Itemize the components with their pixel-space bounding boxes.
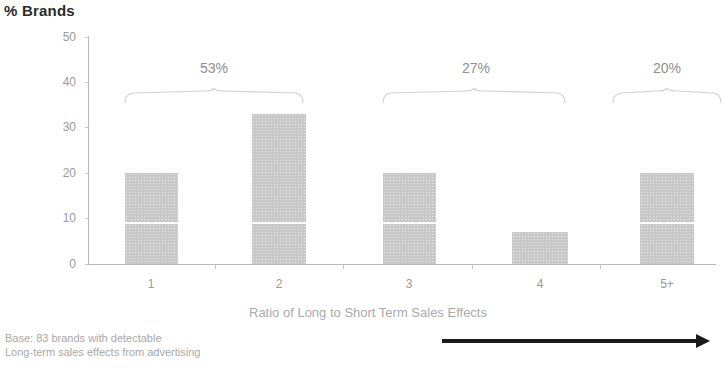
y-tick-mark	[85, 82, 89, 83]
y-tick-mark	[85, 264, 89, 265]
footnote-text: Base: 83 brands with detectable Long-ter…	[5, 331, 200, 359]
bracket-curly-1	[124, 88, 304, 104]
bar-category-1	[125, 173, 178, 264]
x-tick-label-4: 4	[510, 277, 570, 291]
bracket-curly-2	[382, 88, 566, 104]
bracket-curly-3	[612, 88, 722, 104]
x-tick-label-2: 2	[249, 277, 309, 291]
y-tick-mark	[85, 127, 89, 128]
bar-category-5plus	[640, 173, 694, 264]
bar-category-2	[252, 114, 306, 264]
y-tick-mark	[85, 218, 89, 219]
bar-category-4	[512, 232, 568, 264]
x-axis-title: Ratio of Long to Short Term Sales Effect…	[228, 305, 508, 320]
y-tick-label-0: 0	[40, 258, 76, 270]
x-tick-mark	[215, 264, 216, 269]
y-tick-label-40: 40	[40, 76, 76, 88]
bar-divider-category-1	[125, 222, 178, 224]
y-tick-mark	[85, 173, 89, 174]
x-tick-label-5plus: 5+	[637, 277, 697, 291]
bar-divider-category-5plus	[640, 222, 694, 224]
x-tick-mark	[600, 264, 601, 269]
right-arrow-icon	[440, 330, 712, 352]
bar-divider-category-2	[252, 222, 306, 224]
y-tick-label-50: 50	[40, 31, 76, 43]
x-axis-line	[88, 264, 716, 265]
bar-divider-category-3	[383, 222, 436, 224]
bracket-label-53: 53%	[150, 60, 278, 76]
x-tick-label-1: 1	[121, 277, 181, 291]
y-tick-label-20: 20	[40, 167, 76, 179]
bar-category-3	[383, 173, 436, 264]
bracket-label-20: 20%	[612, 60, 722, 76]
y-tick-mark	[85, 37, 89, 38]
chart-figure: % Brands 50 40 30 20 10 0 1 2 3 4 5+ Rat…	[0, 0, 724, 368]
x-tick-mark	[472, 264, 473, 269]
x-tick-label-3: 3	[379, 277, 439, 291]
y-axis-line	[88, 36, 89, 265]
x-tick-mark	[343, 264, 344, 269]
y-tick-label-30: 30	[40, 121, 76, 133]
bracket-label-27: 27%	[412, 60, 540, 76]
y-axis-title: % Brands	[4, 2, 75, 19]
y-tick-label-10: 10	[40, 212, 76, 224]
